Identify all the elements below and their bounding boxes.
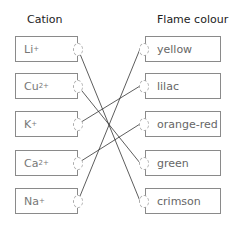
colour-box-crimson: crimson <box>145 188 221 214</box>
colour-box-yellow: yellow <box>145 36 221 62</box>
right-connector-lilac[interactable] <box>139 80 149 93</box>
left-connector-na[interactable] <box>73 195 83 208</box>
right-connector-orange-red[interactable] <box>139 118 149 131</box>
cation-box-li: Li+ <box>15 36 78 62</box>
line-ca-orangered <box>78 124 140 163</box>
cation-box-na: Na+ <box>15 188 78 214</box>
colour-box-lilac: lilac <box>145 73 221 99</box>
line-k-lilac <box>78 86 140 124</box>
cation-box-ca: Ca2+ <box>15 150 78 176</box>
cation-box-cu: Cu2+ <box>15 73 78 99</box>
cation-box-k: K+ <box>15 111 78 137</box>
right-connector-yellow[interactable] <box>139 43 149 56</box>
colour-box-orange-red: orange-red <box>145 111 221 137</box>
left-connector-k[interactable] <box>73 118 83 131</box>
colour-box-green: green <box>145 150 221 176</box>
right-connector-green[interactable] <box>139 157 149 170</box>
right-connector-crimson[interactable] <box>139 195 149 208</box>
left-connector-ca[interactable] <box>73 157 83 170</box>
left-connector-cu[interactable] <box>73 80 83 93</box>
left-connector-li[interactable] <box>73 43 83 56</box>
